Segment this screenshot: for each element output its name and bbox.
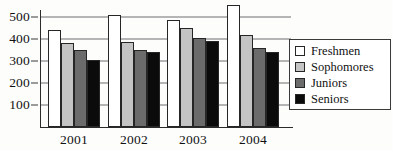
y-tick-label: 300 bbox=[0, 54, 30, 68]
y-tick-label: 500 bbox=[0, 10, 30, 24]
bar-sophomores-2002 bbox=[121, 42, 134, 127]
bar-freshmen-2003 bbox=[167, 20, 180, 127]
x-tick-label: 2001 bbox=[42, 133, 106, 147]
x-tick-label: 2003 bbox=[161, 133, 225, 147]
bar-sophomores-2003 bbox=[180, 28, 193, 127]
y-tick-label: 200 bbox=[0, 76, 30, 90]
legend-label: Seniors bbox=[311, 93, 349, 106]
x-axis-line bbox=[40, 127, 293, 128]
y-axis-line bbox=[40, 10, 41, 127]
bar-seniors-2003 bbox=[206, 41, 219, 127]
bar-freshmen-2004 bbox=[227, 5, 240, 127]
bar-freshmen-2001 bbox=[48, 30, 61, 127]
legend-label: Freshmen bbox=[311, 45, 360, 58]
bar-seniors-2001 bbox=[87, 60, 100, 127]
plot-area bbox=[40, 0, 291, 150]
y-tick-label: 100 bbox=[0, 98, 30, 112]
bar-juniors-2003 bbox=[193, 38, 206, 127]
bar-chart: 500 400 300 200 100 2001200220032004 Fre… bbox=[0, 0, 393, 150]
y-tick-mark bbox=[31, 83, 38, 84]
legend-swatch-icon bbox=[295, 46, 305, 56]
bar-juniors-2001 bbox=[74, 50, 87, 127]
legend-swatch-icon bbox=[295, 94, 305, 104]
gridline bbox=[40, 17, 291, 18]
bar-seniors-2004 bbox=[266, 52, 279, 127]
x-tick-label: 2004 bbox=[221, 133, 285, 147]
y-tick-label: 400 bbox=[0, 32, 30, 46]
legend-item-juniors: Juniors bbox=[295, 75, 390, 91]
y-axis: 500 400 300 200 100 bbox=[0, 0, 30, 150]
y-tick-mark bbox=[31, 17, 38, 18]
legend-swatch-icon bbox=[295, 62, 305, 72]
bar-freshmen-2002 bbox=[108, 15, 121, 127]
gridline bbox=[40, 39, 291, 40]
y-tick-mark bbox=[31, 61, 38, 62]
legend-swatch-icon bbox=[295, 78, 305, 88]
legend-item-freshmen: Freshmen bbox=[295, 43, 390, 59]
legend-label: Juniors bbox=[311, 77, 347, 90]
x-tick-label: 2002 bbox=[102, 133, 166, 147]
bar-seniors-2002 bbox=[147, 52, 160, 127]
bar-sophomores-2001 bbox=[61, 43, 74, 127]
y-tick-mark bbox=[31, 39, 38, 40]
y-tick-mark bbox=[31, 105, 38, 106]
legend-item-seniors: Seniors bbox=[295, 91, 390, 107]
bar-juniors-2004 bbox=[253, 48, 266, 127]
bar-sophomores-2004 bbox=[240, 35, 253, 127]
legend-item-sophomores: Sophomores bbox=[295, 59, 390, 75]
legend: Freshmen Sophomores Juniors Seniors bbox=[289, 39, 391, 110]
legend-label: Sophomores bbox=[311, 61, 374, 74]
bar-juniors-2002 bbox=[134, 50, 147, 127]
